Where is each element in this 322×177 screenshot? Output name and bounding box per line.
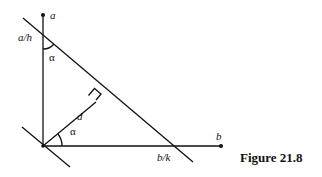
label-b: b <box>216 131 222 142</box>
label-a: a <box>50 10 56 21</box>
parallel-plane-through-origin <box>22 127 70 167</box>
point-a <box>41 13 45 17</box>
perpendicular-d <box>43 102 96 146</box>
figure-caption: Figure 21.8 <box>240 151 303 164</box>
right-angle-marker <box>89 89 102 101</box>
label-d: d <box>77 111 83 122</box>
label-b-over-k: b/k <box>157 152 170 163</box>
angle-arc-top <box>43 44 54 49</box>
point-b <box>219 144 223 148</box>
label-alpha-top: α <box>49 52 55 63</box>
angle-arc-bottom <box>58 134 62 146</box>
label-a-over-h: a/h <box>18 32 32 43</box>
plane-line <box>23 18 193 162</box>
origin-point <box>41 144 45 148</box>
label-alpha-bottom: α <box>70 126 76 137</box>
